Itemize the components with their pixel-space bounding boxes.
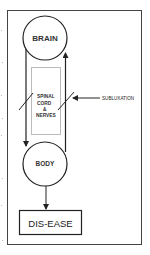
disease-label: DIS-EASE (28, 218, 72, 229)
scan-specks (1, 30, 3, 241)
spinal-label-line-2: CORD (37, 101, 52, 106)
body-label: BODY (36, 160, 55, 167)
brain-label: BRAIN (32, 34, 58, 43)
spinal-label-line-4: NERVES (36, 113, 56, 118)
subluxation-diagram: BRAIN SPINAL CORD & NERVES SUBLUXATION B… (0, 0, 150, 255)
spinal-label-line-3: & (43, 107, 47, 112)
subluxation-label: SUBLUXATION (102, 96, 134, 101)
spinal-label-line-1: SPINAL (37, 94, 55, 99)
